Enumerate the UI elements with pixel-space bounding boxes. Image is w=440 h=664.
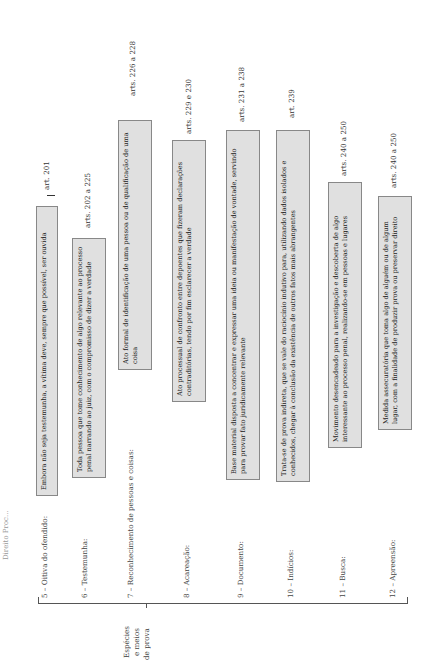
item-text: Ato formal de identificação de uma pesso…	[122, 132, 139, 364]
item-label-busca: 11 – Busca:	[338, 556, 347, 598]
item-box-documento: Base material disposta a concentrar e ex…	[226, 130, 260, 480]
item-ref-oitiva: art. 201	[42, 161, 51, 190]
item-box-reconhecimento: Ato formal de identificação de uma pesso…	[118, 120, 152, 370]
bracket-end-right	[407, 597, 408, 603]
group-label-line3: de prova	[142, 628, 151, 660]
item-text: Embora não seja testemunha, a vítima dev…	[40, 232, 48, 490]
item-label-testemunha: 6 – Testemunha:	[80, 539, 89, 598]
item-ref-documento: arts. 231 a 238	[237, 67, 246, 122]
item-text: Ato processual de confronto entre depoen…	[176, 162, 193, 396]
group-label-line2: e meios	[132, 628, 141, 656]
bracket-end-left	[38, 597, 39, 603]
page-header: Direito Proc...	[2, 510, 10, 560]
item-box-busca: Movimento desencadeado para a investigaç…	[328, 182, 362, 448]
item-ref-apreensao: arts. 240 a 250	[389, 133, 398, 188]
item-box-indicios: Trata-se de prova indireta, que se vale …	[276, 130, 310, 482]
item-box-oitiva: Embora não seja testemunha, a vítima dev…	[36, 206, 58, 496]
item-label-apreensao: 12 – Apreensão:	[388, 540, 397, 598]
item-ref-reconhecimento: arts. 226 a 228	[128, 41, 137, 96]
item-ref-busca: arts. 240 a 250	[339, 121, 348, 176]
item-label-acareacao: 8 – Acareação:	[182, 545, 191, 598]
item-ref-acareacao: arts. 229 e 230	[184, 79, 193, 134]
group-label-line1: Espécies	[122, 626, 131, 658]
item-label-indicios: 10 – Indícios:	[286, 550, 295, 598]
item-label-documento: 9 – Documento:	[236, 541, 245, 598]
item-text: Trata-se de prova indireta, que se vale …	[280, 161, 297, 476]
item-label-oitiva: 5 – Oitiva do ofendido:	[40, 516, 49, 598]
item-box-testemunha: Toda pessoa que tome conhecimento de alg…	[72, 238, 106, 478]
item-text: Movimento desencadeado para a investigaç…	[332, 216, 349, 442]
item-ref-indicios: art. 239	[287, 89, 296, 118]
item-box-acareacao: Ato processual de confronto entre depoen…	[172, 140, 206, 402]
item-ref-testemunha: arts. 202 a 225	[83, 173, 92, 228]
item-label-reconhecimento: 7 – Reconhecimento de pessoas e coisas:	[126, 449, 135, 598]
item-text: Toda pessoa que tome conhecimento de alg…	[76, 247, 93, 472]
bracket-point	[146, 603, 147, 608]
item-text: Medida assecuratória que toma algo de al…	[382, 217, 399, 424]
group-bracket	[38, 603, 408, 604]
item-box-apreensao: Medida assecuratória que toma algo de al…	[378, 196, 412, 430]
item-text: Base material disposta a concentrar e ex…	[230, 149, 247, 474]
